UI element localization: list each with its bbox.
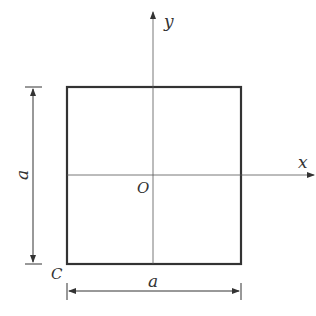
corner-label: C bbox=[51, 265, 63, 283]
diagram: y x O C a a bbox=[0, 0, 316, 316]
square-section-diagram: y x O C a a bbox=[0, 0, 316, 316]
y-axis-label: y bbox=[163, 11, 174, 31]
square-outline bbox=[67, 87, 241, 264]
side-bottom-label: a bbox=[148, 271, 158, 291]
origin-label: O bbox=[137, 179, 149, 197]
x-axis-label: x bbox=[298, 152, 308, 172]
side-left-label: a bbox=[12, 170, 32, 180]
